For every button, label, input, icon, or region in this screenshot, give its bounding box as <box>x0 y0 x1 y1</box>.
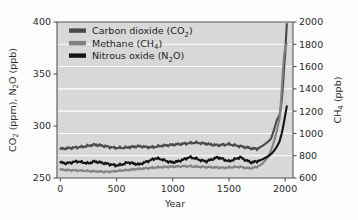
y-right-tick-label: 1600 <box>299 61 323 72</box>
x-tick-label: 2000 <box>273 183 297 194</box>
y-right-tick-label: 2000 <box>299 16 323 27</box>
legend-swatch-3 <box>69 53 86 57</box>
y-left-tick-label: 250 <box>33 172 51 183</box>
y-left-tick-label: 300 <box>33 120 51 131</box>
greenhouse-gas-chart: 2503003504006008001000120014001600180020… <box>0 0 358 220</box>
x-tick-label: 0 <box>57 183 63 194</box>
y-right-tick-label: 1200 <box>299 106 323 117</box>
chart-canvas: 2503003504006008001000120014001600180020… <box>0 0 358 220</box>
y-right-tick-label: 1800 <box>299 39 323 50</box>
y-left-tick-label: 350 <box>33 68 51 79</box>
x-tick-label: 1500 <box>217 183 241 194</box>
y-left-tick-label: 400 <box>33 16 51 27</box>
legend-swatch-2 <box>69 41 86 45</box>
y-right-tick-label: 800 <box>299 150 317 161</box>
x-tick-label: 500 <box>107 183 125 194</box>
legend-swatch-1 <box>69 28 86 32</box>
y-right-tick-label: 1000 <box>299 128 323 139</box>
y-right-tick-label: 1400 <box>299 83 323 94</box>
x-axis-title: Year <box>164 198 185 209</box>
y-right-tick-label: 600 <box>299 172 317 183</box>
x-tick-label: 1000 <box>161 183 185 194</box>
